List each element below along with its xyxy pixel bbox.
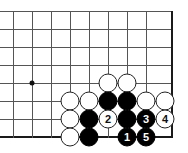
stone-white-move-2: 2 xyxy=(99,110,118,129)
stone-white-move-4: 4 xyxy=(156,110,175,129)
stone-white xyxy=(118,74,137,93)
stone-black xyxy=(80,128,99,147)
stone-white xyxy=(61,110,80,129)
stone-black-move-5: 5 xyxy=(137,128,156,147)
stone-white xyxy=(156,92,175,111)
stone-white xyxy=(80,92,99,111)
move-number-label: 3 xyxy=(143,113,149,124)
stone-white xyxy=(61,92,80,111)
stone-black xyxy=(118,110,137,129)
move-number-label: 4 xyxy=(162,113,168,124)
move-number-label: 2 xyxy=(105,113,111,124)
go-board-diagram: 23415 xyxy=(0,0,188,153)
stone-black xyxy=(80,110,99,129)
stone-black xyxy=(99,92,118,111)
board-stones: 23415 xyxy=(0,0,188,153)
stone-white xyxy=(61,128,80,147)
stone-black-move-3: 3 xyxy=(137,110,156,129)
stone-black xyxy=(118,92,137,111)
stone-black-move-1: 1 xyxy=(118,128,137,147)
move-number-label: 5 xyxy=(143,131,149,142)
stone-white xyxy=(137,92,156,111)
move-number-label: 1 xyxy=(124,131,130,142)
stone-white xyxy=(99,74,118,93)
